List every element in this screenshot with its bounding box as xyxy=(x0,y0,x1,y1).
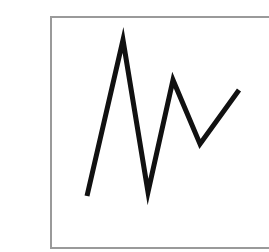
line-chart-icon xyxy=(0,0,269,252)
chart-line-series xyxy=(87,40,239,196)
